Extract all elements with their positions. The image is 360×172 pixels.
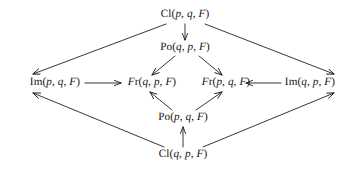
node-fr-p-q-F-label: Fr(p, q, F) xyxy=(202,76,250,88)
node-im-q-p-F: Im(q, p, F) xyxy=(285,77,335,88)
node-fr-q-p-F: Fr(q, p, F) xyxy=(128,77,176,88)
node-im-p-q-F-label: Im(p, q, F) xyxy=(30,76,80,88)
node-cl-p-q-F: Cl(p, q, F) xyxy=(161,9,209,20)
node-fr-q-p-F-label: Fr(q, p, F) xyxy=(128,76,176,88)
arrow-po-q-p-F-to-fr-p-q-F xyxy=(199,56,222,75)
node-po-p-q-F-label: Po(p, q, F) xyxy=(158,111,208,123)
node-po-q-p-F-label: Po(q, p, F) xyxy=(160,41,210,53)
arrow-cl-p-q-F-to-im-p-q-F xyxy=(33,24,166,74)
node-im-p-q-F: Im(p, q, F) xyxy=(30,77,80,88)
node-po-q-p-F: Po(q, p, F) xyxy=(160,42,210,53)
node-cl-q-p-F: Cl(q, p, F) xyxy=(159,149,207,160)
arrow-po-q-p-F-to-fr-q-p-F xyxy=(152,56,175,75)
commutative-diagram: Cl(p, q, F) Po(q, p, F) Im(p, q, F) Fr(q… xyxy=(0,0,360,172)
node-cl-p-q-F-label: Cl(p, q, F) xyxy=(161,8,209,20)
node-fr-p-q-F: Fr(p, q, F) xyxy=(202,77,250,88)
node-po-p-q-F: Po(p, q, F) xyxy=(158,112,208,123)
arrow-po-p-q-F-to-fr-q-p-F xyxy=(150,92,172,110)
arrow-po-p-q-F-to-fr-p-q-F xyxy=(196,92,222,110)
node-im-q-p-F-label: Im(q, p, F) xyxy=(285,76,335,88)
arrow-cl-p-q-F-to-im-q-p-F xyxy=(205,24,334,74)
node-cl-q-p-F-label: Cl(q, p, F) xyxy=(159,148,207,160)
arrow-cl-q-p-F-to-im-p-q-F xyxy=(33,93,164,147)
arrow-cl-q-p-F-to-im-q-p-F xyxy=(203,93,334,147)
